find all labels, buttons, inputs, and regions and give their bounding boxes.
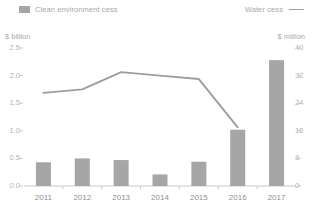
x-axis-label-2014: 2014 [140,193,180,202]
bar-2014[interactable] [153,174,168,186]
x-axis-label-2017: 2017 [257,193,297,202]
right-axis-tick-label: 0 [295,181,309,190]
x-axis-label-2016: 2016 [218,193,258,202]
right-axis-tick-label: 8 [295,153,309,162]
x-axis-label-2011: 2011 [23,193,63,202]
x-axis-label-2015: 2015 [179,193,219,202]
left-axis-tick-label: 0.5 [3,153,20,162]
right-axis-tick-label: 24 [295,98,309,107]
left-axis-tick-label: 2.5 [3,43,20,52]
x-axis-label-2012: 2012 [62,193,102,202]
line-series-water-cess[interactable] [43,72,237,127]
x-axis-label-2013: 2013 [101,193,141,202]
bar-2013[interactable] [114,160,129,186]
bar-2016[interactable] [230,130,245,186]
chart-container: Clean environment cess Water cess $ bill… [0,0,312,212]
right-axis-tick-label: 32 [295,71,309,80]
left-axis-tick-label: 0.0 [3,181,20,190]
plot-area [0,0,312,212]
bar-2015[interactable] [191,162,206,186]
left-axis-tick-label: 1.0 [3,126,20,135]
bar-2011[interactable] [36,162,51,186]
bar-2017[interactable] [269,60,284,186]
plot-svg [0,0,312,212]
right-axis-tick-label: 16 [295,126,309,135]
bar-2012[interactable] [75,158,90,186]
left-axis-tick-label: 2.0 [3,71,20,80]
right-axis-tick-label: 40 [295,43,309,52]
left-axis-tick-label: 1.5 [3,98,20,107]
